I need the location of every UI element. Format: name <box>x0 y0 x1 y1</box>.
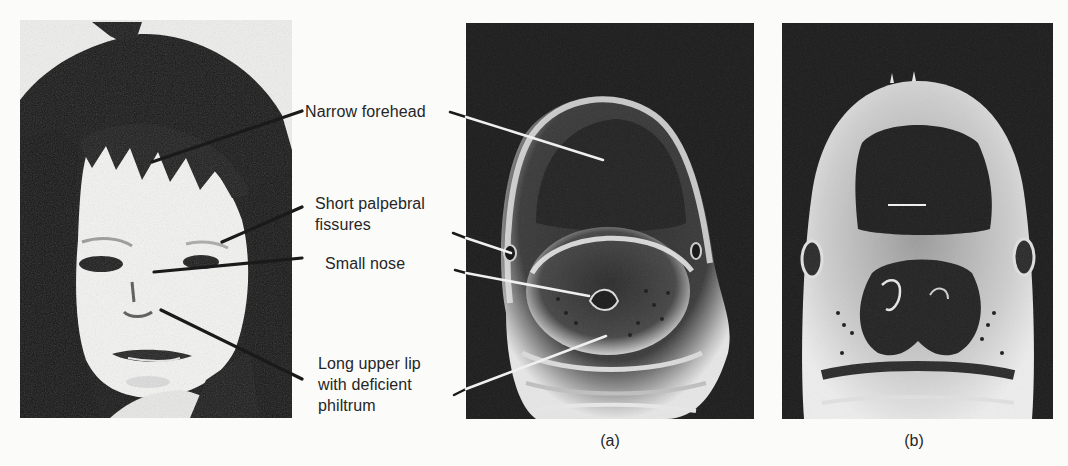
child-photo <box>20 20 292 418</box>
caption-panel-a: (a) <box>590 431 630 451</box>
label-line: philtrum <box>318 395 421 416</box>
label-line: with deficient <box>318 374 421 395</box>
sem-embryo-normal-image <box>782 23 1053 419</box>
label-short-palpebral-fissures: Short palpebral fissures <box>315 193 425 235</box>
label-line: fissures <box>315 214 425 235</box>
label-line: Long upper lip <box>318 353 421 374</box>
label-long-upper-lip: Long upper lip with deficient philtrum <box>318 353 421 416</box>
sem-embryo-affected-image <box>466 23 754 419</box>
sem-panel-a <box>466 23 754 419</box>
sem-panel-b <box>782 23 1053 419</box>
label-line: Small nose <box>325 253 405 274</box>
label-line: Short palpebral <box>315 193 425 214</box>
label-line: Narrow forehead <box>305 101 426 122</box>
figure: Narrow forehead Short palpebral fissures… <box>0 0 1068 466</box>
caption-panel-b: (b) <box>894 431 934 451</box>
child-face-image <box>20 20 292 418</box>
label-narrow-forehead: Narrow forehead <box>305 101 426 122</box>
label-small-nose: Small nose <box>325 253 405 274</box>
